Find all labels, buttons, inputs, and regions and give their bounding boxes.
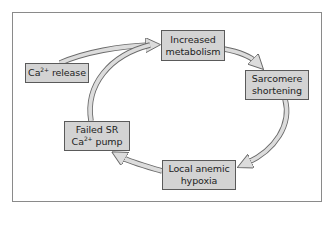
- node-increased-metabolism: Increased metabolism: [161, 30, 225, 61]
- node-ca-release: Ca2+ release: [25, 63, 89, 83]
- node-local-anemic-hypoxia-line1: Local anemic: [168, 163, 229, 175]
- node-failed-sr-pump: Failed SR Ca2+ pump: [64, 121, 130, 151]
- node-failed-sr-pump-line1: Failed SR: [76, 124, 118, 136]
- node-failed-sr-pump-line2: Ca2+ pump: [72, 136, 123, 148]
- arrow-metabolism-to-sarcomere: [224, 49, 256, 62]
- arrow-sarcomere-to-hypoxia: [247, 99, 287, 163]
- node-increased-metabolism-line1: Increased: [170, 34, 215, 46]
- node-sarcomere-shortening: Sarcomere shortening: [245, 70, 309, 100]
- node-local-anemic-hypoxia-line2: hypoxia: [181, 175, 218, 187]
- node-sarcomere-shortening-line1: Sarcomere: [252, 73, 302, 85]
- node-ca-release-label: Ca2+ release: [28, 67, 86, 79]
- arrow-hypoxia-to-failed-pump: [121, 157, 162, 171]
- node-increased-metabolism-line2: metabolism: [166, 46, 221, 58]
- node-sarcomere-shortening-line2: shortening: [252, 85, 302, 97]
- node-local-anemic-hypoxia: Local anemic hypoxia: [162, 160, 236, 190]
- arrow-failed-pump-to-metabolism: [90, 45, 150, 121]
